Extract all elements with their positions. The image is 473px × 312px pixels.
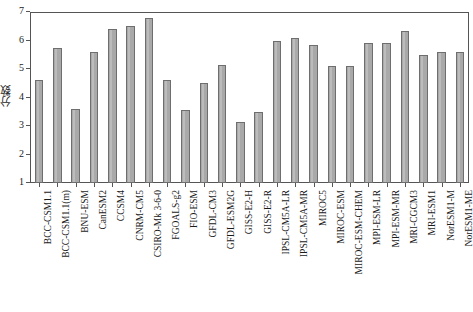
bar-series [30,12,469,183]
bar [456,52,465,183]
x-axis-tick [222,183,223,187]
x-axis-tick [368,183,369,187]
x-axis-tick [185,183,186,187]
x-axis-label: BNU-ESM [80,190,90,233]
x-axis-tick [460,183,461,187]
x-axis-label: NorESM1-M [446,190,456,241]
x-axis-label: GISS-E2-H [244,190,254,234]
x-axis-tick [405,183,406,187]
x-axis-label: GISS-E2-R [263,190,273,234]
bar [401,31,410,183]
x-axis-tick [277,183,278,187]
bar [291,38,300,183]
y-axis-title: 分数 [1,68,17,124]
y-tick-label: 5 [19,62,24,73]
y-tick-label: 1 [19,176,24,187]
y-tick-label: 6 [19,34,24,45]
y-tick-label: 7 [19,5,24,16]
x-axis-tick [259,183,260,187]
x-axis-tick [295,183,296,187]
bar [364,43,373,183]
x-axis-label: FGOALS-g2 [171,190,181,240]
bar [254,112,263,183]
x-axis-label: MIROC5 [318,190,328,226]
bar [437,52,446,183]
x-axis-label: NorESM1-ME [464,190,473,246]
x-axis-label: MIROC-ESM-CHEM [354,190,364,274]
bar [71,109,80,183]
x-axis-tick [57,183,58,187]
x-axis-tick [204,183,205,187]
x-axis-label: MIROC-ESM [336,190,346,244]
x-axis-tick [131,183,132,187]
bar [346,66,355,183]
x-axis-label: CanESM2 [98,190,108,230]
bar [419,55,428,183]
bar [328,66,337,183]
x-axis-tick [387,183,388,187]
bar [163,80,172,183]
x-axis-tick [332,183,333,187]
bar [382,43,391,183]
bar [236,122,245,183]
bar [145,18,154,183]
x-axis-label: FIO-ESM [189,190,199,228]
bar [35,80,44,183]
x-axis-label: BCC-CSM1.1(m) [61,190,71,258]
x-axis-label: GFDL-CM3 [208,190,218,238]
x-axis-label: IPSL-CM5A-MR [299,190,309,257]
x-axis-tick [167,183,168,187]
bar [53,48,62,183]
x-axis-tick [39,183,40,187]
x-axis-label: CCSM4 [116,190,126,221]
x-axis-label: MRI-CGCM3 [409,190,419,244]
x-axis-tick [442,183,443,187]
x-axis-label: IPSL-CM5A-LR [281,190,291,254]
x-axis-tick [350,183,351,187]
x-axis-tick [112,183,113,187]
bar [108,29,117,183]
x-axis-tick [423,183,424,187]
bar-chart-figure: 分数 1234567 BCC-CSM1.1BCC-CSM1.1(m)BNU-ES… [0,0,473,312]
x-axis-label: MRI-ESM1 [427,190,437,235]
x-axis-label: CNRM-CM5 [135,190,145,241]
x-axis-tick [76,183,77,187]
y-tick-label: 2 [19,148,24,159]
x-axis-label: BCC-CSM1.1 [43,190,53,244]
x-axis-tick [240,183,241,187]
y-tick-label: 3 [19,119,24,130]
bar [126,26,135,183]
x-axis-label: MPI-ESM-LR [372,190,382,245]
y-tick-label: 4 [19,91,24,102]
bar [200,83,209,183]
x-axis-label: MPI-ESM-MR [391,190,401,248]
bar [181,110,190,183]
x-axis-label: GFDL-ESM2G [226,190,236,249]
x-axis-tick [314,183,315,187]
x-axis-tick [94,183,95,187]
x-axis-label: CSIRO-Mk 3-6-0 [153,190,163,257]
bar [218,65,227,183]
bar [309,45,318,183]
x-axis-tick [149,183,150,187]
bar [90,52,99,183]
bar [273,41,282,184]
